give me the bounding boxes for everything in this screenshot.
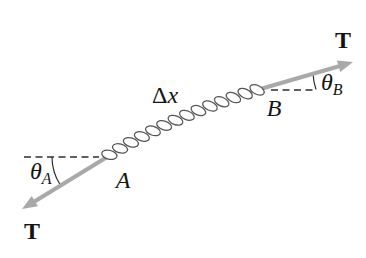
theta-a-subscript: A — [41, 170, 52, 187]
string-tension-diagram: T T Δx A B θA θB — [0, 0, 366, 258]
diagram-background — [0, 0, 366, 258]
tension-label-bottom: T — [24, 218, 40, 244]
point-label-b: B — [267, 95, 282, 121]
theta-b-subscript: B — [333, 81, 343, 98]
theta-a-symbol: θ — [30, 158, 42, 184]
segment-length-label: Δx — [152, 82, 178, 108]
point-label-a: A — [114, 167, 131, 193]
delta-symbol: Δ — [152, 82, 167, 108]
tension-label-top: T — [335, 27, 351, 53]
x-variable: x — [166, 82, 178, 108]
theta-b-symbol: θ — [321, 69, 333, 95]
